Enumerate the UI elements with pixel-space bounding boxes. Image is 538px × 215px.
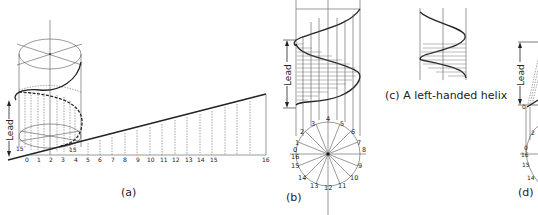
svg-text:7: 7 [111,156,115,163]
panel-d-caption: (d) [518,186,534,199]
svg-text:6: 6 [351,128,355,136]
svg-text:8: 8 [362,146,366,154]
panel-c-caption: (c) A left-handed helix [385,89,507,102]
panel-d-drawing: Lead 0 2 0 16 15 14 [515,42,538,182]
svg-text:10: 10 [147,156,155,163]
svg-text:0: 0 [522,103,526,110]
svg-text:8: 8 [123,156,127,163]
panel-b-lead-label: Lead [283,64,293,86]
svg-text:3: 3 [61,156,65,163]
panel-a-lead-label: Lead [5,119,15,141]
svg-text:5: 5 [86,156,90,163]
panel-a-caption: (a) [121,186,136,199]
svg-text:3: 3 [311,120,315,128]
panel-b-drawing: Lead 0 16 1 [282,0,366,215]
svg-text:4: 4 [326,115,330,123]
svg-text:2: 2 [531,129,535,136]
svg-text:0: 0 [524,144,528,151]
svg-text:10: 10 [350,174,358,182]
svg-text:12: 12 [172,156,180,163]
svg-text:2: 2 [300,128,304,136]
svg-text:15: 15 [69,146,77,153]
helix-figure: Lead 0 1 2 3 4 5 6 7 8 9 10 11 12 13 14 … [0,0,538,215]
svg-text:11: 11 [160,156,168,163]
svg-text:4: 4 [74,156,78,163]
svg-text:16: 16 [521,151,529,158]
panel-c-drawing [420,8,466,80]
svg-text:15: 15 [16,145,24,152]
svg-text:14: 14 [197,156,205,163]
svg-text:1: 1 [295,139,299,147]
panel-b-caption: (b) [286,191,302,204]
svg-text:6: 6 [98,156,102,163]
svg-text:15: 15 [210,156,218,163]
development-tick-labels: 0 1 2 3 4 5 6 7 8 9 10 11 12 13 14 15 16 [25,156,270,163]
svg-text:12: 12 [324,184,332,192]
svg-text:7: 7 [357,139,361,147]
panel-d-lead-label: Lead [516,64,526,86]
svg-text:0: 0 [25,156,29,163]
svg-text:9: 9 [136,156,140,163]
development-verticals [88,101,250,155]
svg-text:13: 13 [185,156,193,163]
svg-text:15: 15 [522,161,530,168]
svg-text:1: 1 [37,156,41,163]
svg-text:14: 14 [298,174,306,182]
svg-text:14: 14 [527,174,535,181]
svg-text:9: 9 [358,162,362,170]
svg-text:16: 16 [291,153,299,161]
svg-text:5: 5 [340,120,344,128]
svg-text:2: 2 [49,156,53,163]
svg-text:11: 11 [338,182,346,190]
svg-text:13: 13 [310,182,318,190]
svg-text:16: 16 [262,156,270,163]
panel-a-drawing: Lead 0 1 2 3 4 5 6 7 8 9 10 11 12 13 14 … [4,20,270,163]
svg-text:15: 15 [291,162,299,170]
